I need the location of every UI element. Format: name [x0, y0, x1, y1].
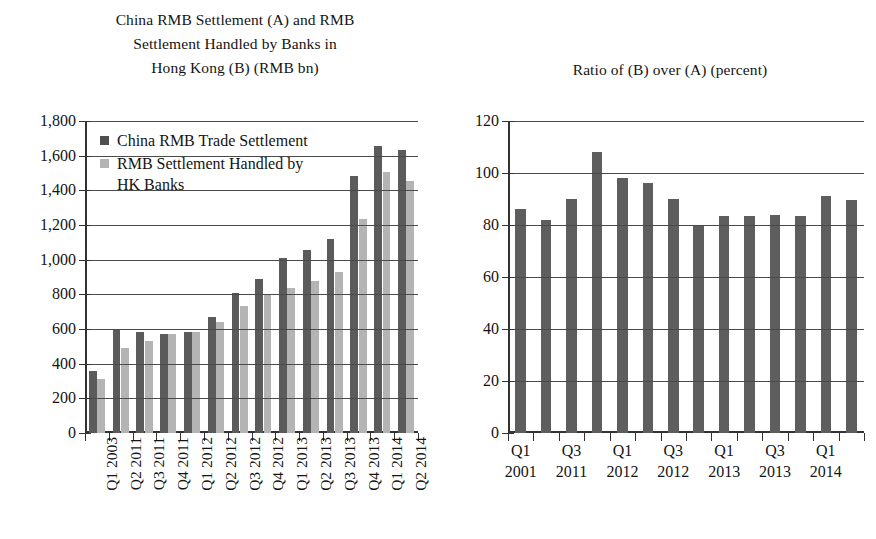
bar	[821, 196, 832, 433]
x-axis-label-year: 2001	[495, 461, 547, 482]
y-axis-tick	[79, 156, 91, 157]
bar-group	[323, 121, 347, 433]
bar	[398, 150, 406, 433]
bar	[846, 200, 857, 433]
x-axis-label-quarter: Q1	[698, 440, 750, 461]
x-axis-label: Q1 2014	[388, 437, 406, 491]
gridline	[85, 329, 418, 330]
left-chart-legend: China RMB Trade Settlement RMB Settlemen…	[100, 130, 310, 197]
legend-item-china-rmb-trade-settlement: China RMB Trade Settlement	[100, 130, 310, 152]
x-axis-label: Q12014	[800, 440, 852, 482]
bar	[311, 281, 319, 433]
bar-group	[347, 121, 371, 433]
bar	[795, 216, 806, 433]
y-axis-tick	[502, 329, 514, 330]
gridline	[508, 329, 864, 330]
y-axis-label: 400	[52, 356, 76, 372]
bar	[160, 334, 168, 433]
gridline	[508, 381, 864, 382]
right-x-axis-labels: Q12001Q32011Q12012Q32012Q12013Q32013Q120…	[508, 440, 864, 500]
bar	[744, 216, 755, 433]
y-axis-label: 20	[483, 373, 499, 389]
gridline	[508, 173, 864, 174]
bar	[719, 216, 730, 433]
y-axis-label: 1,800	[40, 113, 76, 129]
bar	[121, 348, 129, 433]
x-axis-label-quarter: Q3	[749, 440, 801, 461]
x-axis-tick	[864, 433, 865, 441]
bar	[566, 199, 577, 433]
bar	[279, 258, 287, 433]
y-axis-tick	[502, 121, 514, 122]
gridline	[85, 294, 418, 295]
y-axis-tick	[79, 329, 91, 330]
x-axis-label-year: 2012	[596, 461, 648, 482]
y-axis-tick	[502, 225, 514, 226]
bar	[303, 250, 311, 433]
x-axis-label-quarter: Q1	[495, 440, 547, 461]
x-axis-label-quarter: Q1	[596, 440, 648, 461]
x-axis-label: Q2 2012	[222, 437, 240, 491]
x-axis-label: Q12013	[698, 440, 750, 482]
x-axis-label: Q4 2011	[174, 437, 192, 490]
bar	[216, 322, 224, 433]
x-axis-label-year: 2014	[800, 461, 852, 482]
x-axis-label: Q2 2013	[317, 437, 335, 491]
bar	[592, 152, 603, 433]
x-axis-label: Q4 2013	[365, 437, 383, 491]
left-chart-title-line-2: Settlement Handled by Banks in	[60, 32, 410, 56]
bar	[350, 176, 358, 433]
right-plot-area: 020406080100120	[508, 121, 864, 433]
bar	[359, 219, 367, 433]
bar	[383, 172, 391, 433]
y-axis-tick	[502, 173, 514, 174]
bar	[192, 332, 200, 433]
bar	[145, 341, 153, 433]
x-axis-label: Q1 2003	[103, 437, 121, 491]
x-axis-label: Q4 2012	[269, 437, 287, 491]
y-axis-label: 80	[483, 217, 499, 233]
gridline	[85, 121, 418, 122]
x-axis-label-year: 2011	[546, 461, 598, 482]
x-axis-label: Q12001	[495, 440, 547, 482]
x-axis-label: Q2 2011	[127, 437, 145, 490]
y-axis-label: 600	[52, 321, 76, 337]
y-axis-tick	[79, 364, 91, 365]
y-axis-tick	[79, 260, 91, 261]
x-axis-label-year: 2012	[647, 461, 699, 482]
bar	[168, 334, 176, 433]
y-axis-label: 200	[52, 390, 76, 406]
bar	[374, 146, 382, 433]
x-axis-label: Q2 2014	[412, 437, 430, 491]
bar	[287, 288, 295, 433]
left-chart-title: China RMB Settlement (A) and RMB Settlem…	[60, 8, 410, 80]
bar	[406, 181, 414, 433]
y-axis-tick	[502, 381, 514, 382]
bar	[255, 279, 263, 433]
bar	[97, 379, 105, 433]
legend-item-rmb-settlement-hk-banks: RMB Settlement Handled by HK Banks	[100, 153, 310, 196]
bar-group	[370, 121, 394, 433]
y-axis-label: 60	[483, 269, 499, 285]
gridline	[85, 398, 418, 399]
y-axis-label: 800	[52, 286, 76, 302]
x-axis-label: Q3 2011	[150, 437, 168, 490]
bar	[136, 332, 144, 433]
y-axis-tick	[79, 225, 91, 226]
gridline	[85, 225, 418, 226]
left-chart-title-line-1: China RMB Settlement (A) and RMB	[60, 8, 410, 32]
y-axis-tick	[79, 121, 91, 122]
bar	[335, 272, 343, 433]
bar	[327, 239, 335, 433]
left-chart-panel: China RMB Settlement (A) and RMB Settlem…	[0, 0, 450, 539]
bar	[240, 306, 248, 433]
gridline	[508, 277, 864, 278]
y-axis-tick	[79, 398, 91, 399]
bar	[515, 209, 526, 433]
bar	[770, 215, 781, 433]
legend-swatch-light-icon	[100, 159, 109, 168]
y-axis-label: 120	[475, 113, 499, 129]
x-axis-label-quarter: Q3	[647, 440, 699, 461]
x-axis-label: Q3 2012	[246, 437, 264, 491]
x-axis-label-year: 2013	[698, 461, 750, 482]
